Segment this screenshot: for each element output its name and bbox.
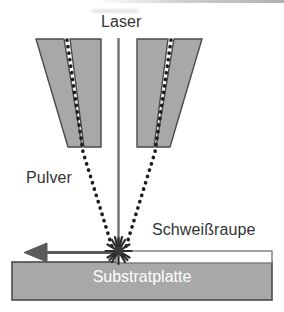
label-substratplatte: Substratplatte xyxy=(0,269,284,285)
travel-direction-arrow xyxy=(24,243,118,262)
weld-bead xyxy=(116,251,272,263)
label-laser: Laser xyxy=(101,14,142,30)
label-schweissraupe: Schweißraupe xyxy=(152,222,255,238)
diagram-artwork xyxy=(0,0,284,312)
label-pulver: Pulver xyxy=(26,170,72,186)
diagram-canvas: Laser Pulver Schweißraupe Substratplatte xyxy=(0,0,284,312)
